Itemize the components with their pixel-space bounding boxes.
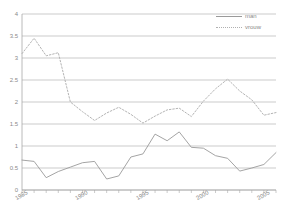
series-layer xyxy=(22,38,276,179)
y-tick-label: 3.5 xyxy=(0,33,18,39)
y-tick-label: 3 xyxy=(0,55,18,61)
legend-item-vrouw[interactable]: vrouw xyxy=(216,21,278,32)
y-tick-label: 2.5 xyxy=(0,77,18,83)
y-tick-label: 0.5 xyxy=(0,165,18,171)
legend-item-man[interactable]: man xyxy=(216,10,278,21)
dotted-line-key-icon xyxy=(216,23,242,31)
y-tick-label: 1 xyxy=(0,143,18,149)
line-chart: 00.511.522.533.54 19851990199520002005 m… xyxy=(0,0,283,216)
gridlines xyxy=(22,14,276,190)
legend-label-man: man xyxy=(245,13,257,19)
series-line-man xyxy=(22,132,276,179)
y-tick-label: 1.5 xyxy=(0,121,18,127)
legend: man vrouw xyxy=(216,10,278,36)
y-tick-label: 0 xyxy=(0,187,18,193)
series-line-vrouw xyxy=(22,38,276,123)
y-tick-label: 2 xyxy=(0,99,18,105)
y-tick-label: 4 xyxy=(0,11,18,17)
solid-line-key-icon xyxy=(216,12,242,20)
legend-label-vrouw: vrouw xyxy=(245,24,261,30)
